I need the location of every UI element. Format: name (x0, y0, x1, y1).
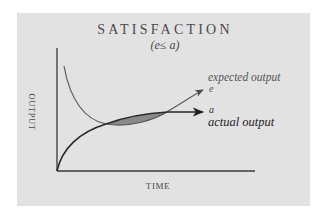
expected-output-symbol: e (209, 83, 213, 94)
y-axis-label: OUTPUT (27, 93, 37, 130)
actual-output-label: actual output (208, 115, 274, 130)
x-axis-label: TIME (146, 181, 170, 191)
expected-output-label: expected output (208, 71, 280, 83)
actual-output-symbol: a (209, 104, 214, 115)
